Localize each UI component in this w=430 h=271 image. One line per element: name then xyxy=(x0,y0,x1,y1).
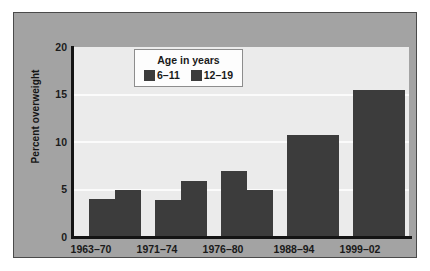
bar-1963-70-6-11[interactable] xyxy=(89,199,115,237)
bar-1988-94-merged[interactable] xyxy=(287,135,339,237)
y-axis-line xyxy=(71,46,74,239)
x-tick-label-1976-80: 1976–80 xyxy=(183,243,263,255)
chart-figure: Age in years 6–11 12–19 20 15 1 xyxy=(0,0,430,271)
bar-1963-70-12-19[interactable] xyxy=(115,190,141,237)
bar-1971-74-12-19[interactable] xyxy=(181,181,207,237)
y-tick-label-15: 15 xyxy=(21,89,67,100)
legend: Age in years 6–11 12–19 xyxy=(134,49,243,87)
legend-entry-6-11[interactable]: 6–11 xyxy=(144,69,180,81)
legend-label-12-19: 12–19 xyxy=(204,69,233,81)
legend-entries: 6–11 12–19 xyxy=(144,69,233,81)
x-tick-label-1999-02: 1999–02 xyxy=(320,243,400,255)
y-tick-label-0: 0 xyxy=(21,232,67,243)
y-axis-ticks: 20 15 10 5 0 xyxy=(14,13,67,271)
legend-swatch-icon-12-19 xyxy=(191,70,202,81)
bar-1999-02-merged[interactable] xyxy=(353,90,405,237)
bar-1976-80-12-19[interactable] xyxy=(247,190,273,237)
legend-title: Age in years xyxy=(144,54,233,66)
legend-label-6-11: 6–11 xyxy=(157,69,180,81)
x-axis-line xyxy=(71,236,412,239)
bar-1971-74-6-11[interactable] xyxy=(155,200,181,237)
y-tick-label-5: 5 xyxy=(21,184,67,195)
y-axis-title: Percent overweight xyxy=(30,52,41,182)
legend-entry-12-19[interactable]: 12–19 xyxy=(191,69,233,81)
legend-swatch-icon-6-11 xyxy=(144,70,155,81)
plot-area: Age in years 6–11 12–19 xyxy=(73,47,409,237)
y-tick-label-10: 10 xyxy=(21,137,67,148)
y-tick-label-20: 20 xyxy=(21,42,67,53)
chart-panel: Age in years 6–11 12–19 20 15 1 xyxy=(13,12,417,258)
bar-1976-80-6-11[interactable] xyxy=(221,171,247,237)
